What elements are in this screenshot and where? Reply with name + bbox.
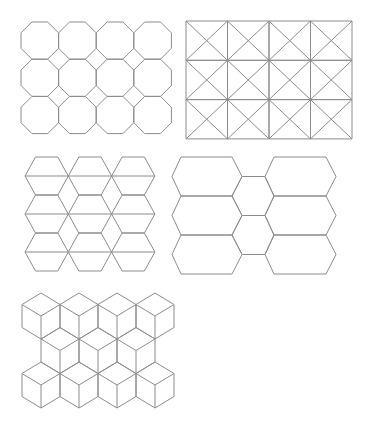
octagon-tile <box>21 96 59 133</box>
cube-edge <box>98 339 117 351</box>
octagon-tile <box>59 59 97 96</box>
octagon-tile <box>96 59 134 96</box>
octagon-square-tiling <box>21 22 171 134</box>
octagon-tile <box>21 22 59 59</box>
small-hexagon-tile <box>232 177 274 216</box>
cube-edge <box>136 374 155 386</box>
cube-edge <box>60 339 79 351</box>
small-hexagon-tile <box>232 216 274 255</box>
elongated-hexagon-tile <box>172 196 242 235</box>
cube-edge <box>136 339 155 351</box>
cube-edge <box>79 339 98 351</box>
elongated-hexagon-tile <box>172 157 242 196</box>
octagon-tile <box>59 96 97 133</box>
cube-edge <box>117 305 136 317</box>
cube-edge <box>41 374 60 386</box>
cube-edge <box>60 305 79 317</box>
cube-edge <box>41 305 60 317</box>
split-hexagon-rhombus-tiling <box>25 157 155 271</box>
elongated-hexagon-tile <box>265 235 336 274</box>
cube-edge <box>41 339 60 351</box>
cube-rhombille-tiling <box>22 293 174 408</box>
elongated-hexagon-tile <box>265 196 336 235</box>
octagon-tile <box>134 96 172 133</box>
cube-edge <box>98 374 117 386</box>
octagon-tile <box>96 22 134 59</box>
cube-edge <box>60 374 79 386</box>
octagon-tile <box>59 22 97 59</box>
octagon-tile <box>96 96 134 133</box>
octagon-tile <box>134 59 172 96</box>
tiling-figure <box>0 0 368 423</box>
cube-edge <box>117 339 136 351</box>
cube-edge <box>155 374 174 386</box>
cube-edge <box>22 305 41 317</box>
tetrakis-square-tiling <box>186 21 352 139</box>
elongated-hexagon-tiling <box>172 157 336 274</box>
cube-edge <box>136 305 155 317</box>
octagon-tile <box>21 59 59 96</box>
cube-edge <box>22 374 41 386</box>
elongated-hexagon-tile <box>265 157 336 196</box>
cube-edge <box>79 305 98 317</box>
cube-edge <box>79 374 98 386</box>
elongated-hexagon-tile <box>172 235 242 274</box>
octagon-tile <box>134 22 172 59</box>
cube-edge <box>155 305 174 317</box>
cube-edge <box>98 305 117 317</box>
cube-edge <box>117 374 136 386</box>
